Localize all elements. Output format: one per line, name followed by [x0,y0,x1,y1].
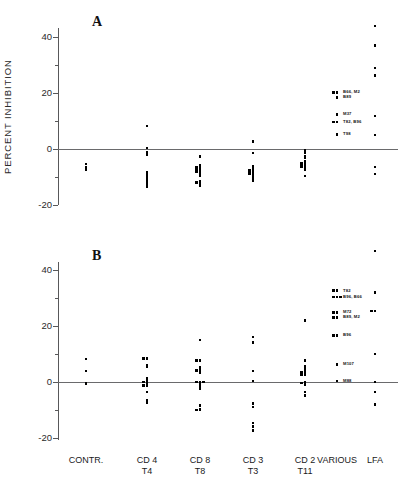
data-point [252,179,255,182]
data-point [252,341,255,344]
y-axis-tick-label: 40 [22,264,52,275]
y-axis-tick-label: -20 [22,432,52,443]
data-point [195,181,198,184]
data-point [252,370,255,373]
data-point [332,91,335,94]
data-point [332,289,335,292]
x-category-line2: T8 [190,466,211,476]
y-axis-tick-label: 0 [22,376,52,387]
data-point [85,370,88,373]
y-axis-tick-minor [55,354,58,355]
data-point [142,357,145,360]
panel-b-letter: B [92,248,101,264]
data-point [374,134,377,137]
data-point [374,67,377,70]
data-point [304,373,307,376]
data-point [370,310,373,313]
x-axis-category-label: CONTR. [69,455,104,465]
x-category-line2: T11 [295,466,316,476]
data-point [304,384,307,387]
data-point [374,74,377,77]
data-point [202,381,205,384]
data-point [374,310,377,313]
y-axis-tick-label: 20 [22,320,52,331]
data-point [300,373,303,376]
data-point [146,401,149,404]
data-point [332,334,335,337]
x-category-line1: LFA [367,455,383,465]
y-axis-tick-minor [55,410,58,411]
x-axis-category-label: LFA [367,455,383,465]
data-point [252,380,255,383]
data-point [85,358,88,361]
y-axis-spine [58,28,59,205]
data-point [336,121,339,124]
data-point [336,91,339,94]
panel-b: B 40200-20T82B96, B66M72B89, M2B96M107M8… [0,240,411,445]
data-point [336,363,339,366]
data-point [142,384,145,387]
data-point [332,121,335,124]
data-point [146,366,149,369]
x-category-line1: VARIOUS [317,455,357,465]
x-category-line1: CD 2 [295,455,316,465]
data-point [374,353,377,356]
data-point [252,402,255,405]
data-point [336,334,339,337]
data-point [304,319,307,322]
data-point [374,250,377,253]
data-point [85,163,88,166]
data-point [248,172,251,175]
data-point [304,391,307,394]
y-axis-tick-major [53,270,58,271]
data-point [199,404,202,407]
data-point [195,409,198,412]
data-point [304,157,307,160]
data-point [142,381,145,384]
data-point [374,25,377,28]
point-annotation-label: T98 [343,132,351,136]
x-axis-category-label: VARIOUS [317,455,357,465]
data-point [252,140,255,143]
data-point [374,115,377,118]
data-point [304,394,307,397]
data-point [374,403,377,406]
data-point [336,296,339,299]
x-category-line2: T4 [137,466,158,476]
data-point [252,422,255,425]
x-category-line1: CD 3 [243,455,264,465]
panel-a: A 40200-20B66, M2B89M37T82, B96T98 [0,0,411,240]
data-point [332,316,335,319]
data-point [199,387,202,390]
point-annotation-label: B89 [343,95,351,99]
data-point [336,311,339,314]
data-point [146,391,149,394]
data-point [300,165,303,168]
y-axis-tick-minor [55,177,58,178]
data-point [199,371,202,374]
data-point [336,289,339,292]
y-axis-tick-minor [55,298,58,299]
data-point [146,185,149,188]
figure-root: PERCENT INHIBITION A 40200-20B66, M2B89M… [0,0,411,493]
y-axis-tick-minor [55,65,58,66]
data-point [146,384,149,387]
point-annotation-label: M88 [343,379,352,383]
data-point [304,175,307,178]
data-point [304,168,307,171]
y-axis-tick-major [53,37,58,38]
data-point [339,296,342,299]
point-annotation-label: M37 [343,112,352,116]
y-axis-tick-major [53,438,58,439]
y-axis-spine [58,262,59,440]
data-point [199,339,202,342]
x-category-line1: CONTR. [69,455,104,465]
data-point [374,173,377,176]
x-category-line2: T3 [243,466,264,476]
data-point [304,151,307,154]
data-point [199,185,202,188]
data-point [85,382,88,385]
point-annotation-label: T82 [343,289,351,293]
data-point [252,429,255,432]
point-annotation-label: M107 [343,362,354,366]
